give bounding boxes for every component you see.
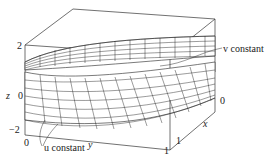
x-tick-0: 0 [220,96,225,106]
u-constant-annotation: u constant [44,143,85,153]
z-tick-0: 0 [18,91,23,101]
z-tick-2: 2 [17,41,22,51]
x-axis-label: x [203,119,207,129]
z-tick-minus-2: −2 [9,125,20,135]
y-tick-1: 1 [164,146,169,156]
v-constant-annotation: v constant [223,44,264,54]
z-axis-label: z [6,91,10,101]
surface-plot-canvas [0,0,265,156]
x-tick-1: 1 [176,136,181,146]
y-tick-0: 0 [24,138,29,148]
y-axis-label: y [88,140,92,150]
box-edge [25,9,73,45]
surface-plot-figure: 2 z 0 −2 0 y 1 0 x 1 v constant u consta… [0,0,265,156]
box-edge [73,9,215,19]
